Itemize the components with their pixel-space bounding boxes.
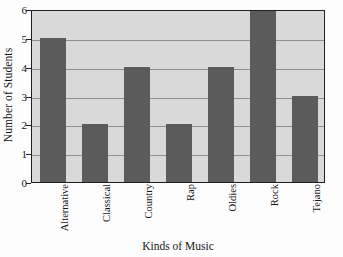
x-axis-title: Kinds of Music	[31, 240, 325, 252]
gridline	[32, 40, 324, 41]
x-axis-tick-label: Rock	[268, 184, 282, 240]
x-axis-tick-labels: AlternativeClassicalCountryRapOldiesRock…	[31, 184, 325, 239]
y-axis-tick-mark	[26, 39, 31, 40]
y-axis-tick-mark	[26, 97, 31, 98]
x-axis-tick-label: Country	[142, 184, 156, 240]
x-axis-tick-label: Rap	[184, 184, 198, 240]
bar	[208, 67, 233, 182]
y-axis-title-text: Number of Students	[2, 48, 14, 142]
y-axis-tick-mark	[26, 183, 31, 184]
x-axis-tick-label: Classical	[100, 184, 114, 240]
y-axis-title: Number of Students	[0, 0, 16, 190]
bar	[40, 38, 65, 182]
x-axis-tick-label: Alternative	[58, 184, 72, 240]
bar-chart: Number of Students 0123456 AlternativeCl…	[0, 0, 343, 257]
gridline	[32, 69, 324, 70]
bar	[292, 96, 317, 183]
gridline	[32, 98, 324, 99]
y-axis-tick-mark	[26, 154, 31, 155]
y-axis-tick-mark	[26, 10, 31, 11]
plot-area	[31, 10, 325, 183]
bar	[124, 67, 149, 182]
bar	[166, 124, 191, 182]
bar	[250, 10, 275, 182]
x-axis-tick-label: Tejano	[310, 184, 324, 240]
x-axis-tick-label: Oldies	[226, 184, 240, 240]
bar	[82, 124, 107, 182]
y-axis-tick-mark	[26, 125, 31, 126]
y-axis-tick-mark	[26, 68, 31, 69]
